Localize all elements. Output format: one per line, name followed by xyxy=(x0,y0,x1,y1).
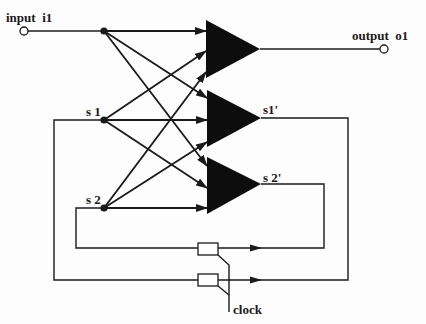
s1-fanout-wires xyxy=(104,51,207,188)
input-terminal xyxy=(20,27,104,35)
network-diagram: input i1 output o1 s 1 s 2 s1' s 2' cloc… xyxy=(0,0,426,324)
delay-box-s1 xyxy=(198,274,218,286)
delay-box-s2 xyxy=(198,243,218,255)
output-label: output o1 xyxy=(352,28,408,43)
s2-label: s 2 xyxy=(86,192,101,207)
diagram-canvas: input i1 output o1 s 1 s 2 s1' s 2' cloc… xyxy=(0,0,426,324)
left-arrow-icon xyxy=(250,277,262,284)
output-terminal xyxy=(260,45,388,53)
clock-wires xyxy=(218,255,229,312)
left-arrow-icon xyxy=(250,245,262,252)
amplifier-s1prime-icon xyxy=(207,90,261,147)
clock-label: clock xyxy=(233,302,263,317)
amplifier-s2prime-icon xyxy=(207,157,261,214)
s1-prime-label: s1' xyxy=(263,102,278,117)
i1-fanout-wires xyxy=(104,31,207,166)
input-label: input i1 xyxy=(6,10,52,25)
s2-prime-label: s 2' xyxy=(263,170,281,185)
i1-junction-dot xyxy=(100,27,107,34)
s1-label: s 1 xyxy=(86,104,101,119)
s2-feedback-loop xyxy=(76,184,324,252)
amplifier-o1-icon xyxy=(206,20,260,78)
s2-fanout-wires xyxy=(104,72,207,208)
